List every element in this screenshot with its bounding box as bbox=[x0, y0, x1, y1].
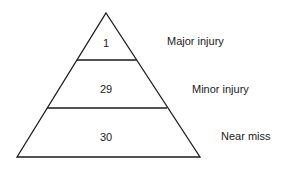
tier-value-near-miss: 30 bbox=[100, 132, 112, 143]
tier-label-near-miss: Near miss bbox=[221, 131, 271, 142]
tier-label-major-injury: Major injury bbox=[167, 36, 224, 47]
tier-label-minor-injury: Minor injury bbox=[192, 84, 249, 95]
tier-value-minor-injury: 29 bbox=[100, 84, 112, 95]
tier-value-major-injury: 1 bbox=[103, 38, 109, 49]
